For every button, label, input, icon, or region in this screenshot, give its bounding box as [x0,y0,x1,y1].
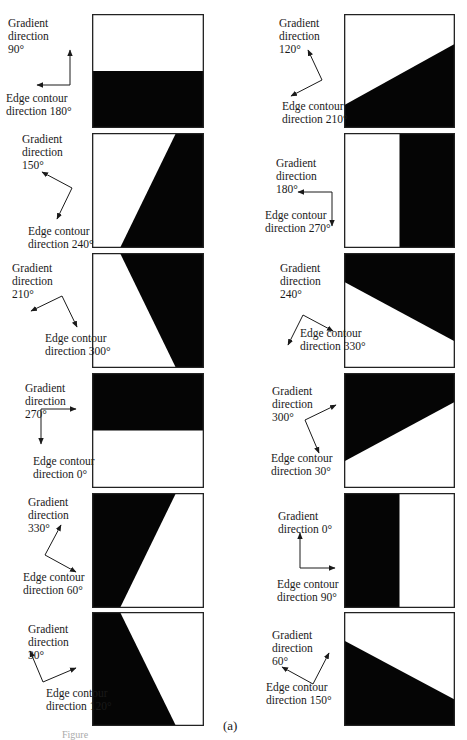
edge-image-box [344,493,455,608]
edge-arrow-L2 [57,188,72,219]
subfigure-label: (a) [223,718,237,734]
edge-contour-direction-label: Edge contourdirection 330° [300,327,366,353]
edge-contour-direction-label: Edge contourdirection 30° [271,452,333,478]
gradient-direction-label: Gradientdirection210° [12,262,53,301]
gradient-arrow-R4 [305,420,319,453]
edge-contour-direction-label: Edge contourdirection 300° [45,332,111,358]
edge-contour-direction-label: Edge contourdirection 150° [266,681,332,707]
edge-contour-direction-label: Edge contourdirection 60° [23,571,85,597]
edge-image-box [92,133,204,248]
gradient-arrow-L6 [43,668,76,682]
edge-image-box [344,612,455,726]
edge-arrow-R6 [313,653,329,684]
edge-contour-direction-label: Edge contourdirection 180° [6,92,72,118]
edge-contour-direction-label: Edge contourdirection 90° [277,578,339,604]
gradient-direction-label: Gradientdirection270° [25,382,66,421]
gradient-direction-label: Gradientdirection120° [279,17,320,56]
gradient-direction-label: Gradientdirection330° [28,496,69,535]
edge-image-box [92,493,204,608]
dark-region [92,71,204,128]
edge-arrow-R1 [291,80,322,96]
edge-contour-direction-label: Edge contourdirection 210° [282,100,348,126]
gradient-arrow-L3 [62,296,77,327]
gradient-direction-label: Gradientdirection240° [280,262,321,301]
gradient-direction-label: Gradientdirection150° [22,133,63,172]
figure-caption-fragment: Figure [62,729,88,740]
dark-region [344,493,400,608]
gradient-direction-label: Gradientdirection180° [276,157,317,196]
edge-image-box [344,133,455,248]
edge-contour-direction-label: Edge contourdirection 120° [46,687,112,713]
dark-region [400,133,456,248]
gradient-arrow-L5 [45,555,76,572]
edge-image-box [344,373,455,488]
dark-region [92,373,204,431]
gradient-direction-label: Gradientdirection90° [8,17,49,56]
edge-image-box [92,373,204,488]
edge-contour-direction-label: Edge contourdirection 0° [33,455,95,481]
gradient-direction-label: Gradientdirection30° [28,623,69,662]
edge-contour-direction-label: Edge contourdirection 240° [28,225,94,251]
gradient-direction-label: Gradientdirection60° [272,629,313,668]
gradient-arrow-L2 [42,172,72,188]
edge-image-box [344,14,455,128]
gradient-direction-label: Gradientdirection 0° [278,510,332,536]
edge-image-box [92,14,204,128]
gradient-direction-label: Gradientdirection300° [272,385,313,424]
edge-contour-direction-label: Edge contourdirection 270° [265,209,331,235]
